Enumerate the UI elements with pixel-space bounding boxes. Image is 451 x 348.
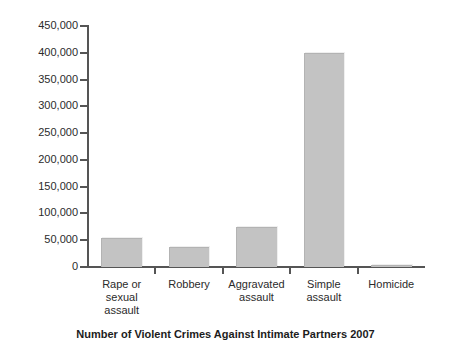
y-axis-tick-label: 400,000 — [6, 47, 78, 58]
bar — [101, 238, 141, 267]
y-axis-labels: 450,000400,000350,000300,000250,000200,0… — [0, 0, 78, 348]
chart-caption: Number of Violent Crimes Against Intimat… — [0, 328, 451, 340]
bar — [304, 53, 344, 267]
x-axis-tick-mark — [154, 267, 156, 274]
y-axis-tick-label: 100,000 — [6, 207, 78, 218]
category-label-line: Homicide — [350, 278, 433, 291]
category-label-line: assault — [282, 291, 365, 304]
x-axis-tick-mark — [289, 267, 291, 274]
y-axis-tick-label: 0 — [6, 261, 78, 272]
bar — [371, 265, 411, 267]
y-axis-line — [87, 25, 89, 268]
y-axis-tick-label: 300,000 — [6, 100, 78, 111]
category-label-line: sexual — [80, 291, 163, 304]
y-axis-tick-label: 50,000 — [6, 234, 78, 245]
bar — [169, 247, 209, 267]
y-axis-tick-label: 450,000 — [6, 20, 78, 31]
y-axis-tick-label: 350,000 — [6, 74, 78, 85]
x-axis-tick-mark — [222, 267, 224, 274]
bar-chart-figure: 450,000400,000350,000300,000250,000200,0… — [0, 0, 451, 348]
x-axis-tick-mark — [357, 267, 359, 274]
y-axis-tick-label: 150,000 — [6, 181, 78, 192]
y-axis-tick-label: 250,000 — [6, 127, 78, 138]
x-axis-category-label: Homicide — [350, 278, 433, 291]
y-axis-tick-label: 200,000 — [6, 154, 78, 165]
category-label-line: assault — [80, 304, 163, 317]
bar — [236, 227, 276, 267]
